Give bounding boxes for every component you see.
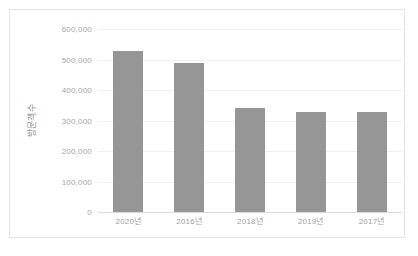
y-axis-tick-label: 400,000: [18, 86, 92, 95]
y-axis-tick-label: 600,000: [18, 25, 92, 34]
x-axis-tick-label: 2018년: [220, 215, 280, 226]
x-axis-tick-labels: 2020년2016년2018년2019년2017년: [98, 215, 402, 231]
bar-2017년[interactable]: [357, 112, 387, 212]
y-axis-tick-label: 500,000: [18, 55, 92, 64]
bar-2016년[interactable]: [174, 63, 204, 212]
y-axis-tick-label: 300,000: [18, 116, 92, 125]
y-axis-tick-label: 200,000: [18, 147, 92, 156]
x-axis-tick-label: 2017년: [342, 215, 402, 226]
bar-2020년[interactable]: [113, 51, 143, 212]
bar-2019년[interactable]: [296, 112, 326, 212]
gridline: [98, 212, 402, 213]
x-axis-tick-label: 2020년: [98, 215, 158, 226]
x-axis-tick-label: 2019년: [281, 215, 341, 226]
plot-area: [98, 29, 402, 212]
x-axis-tick-label: 2016년: [159, 215, 219, 226]
bar-2018년[interactable]: [235, 108, 265, 212]
y-axis-tick-label: 100,000: [18, 177, 92, 186]
y-axis-tick-label: 0: [18, 208, 92, 217]
bar-chart-figure: 방문객수 0100,000200,000300,000400,000500,00…: [9, 9, 405, 238]
bars-layer: [98, 29, 402, 212]
y-axis-tick-labels: 0100,000200,000300,000400,000500,000600,…: [10, 29, 92, 212]
